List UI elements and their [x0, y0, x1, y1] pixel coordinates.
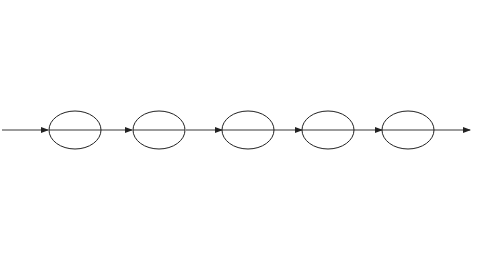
node-4 [302, 111, 354, 149]
node-2 [133, 111, 185, 149]
process-flow-diagram [0, 0, 485, 255]
node-5 [382, 111, 434, 149]
node-1 [49, 111, 101, 149]
node-3 [222, 111, 274, 149]
